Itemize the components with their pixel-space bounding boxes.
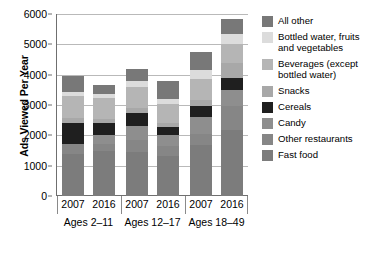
- bar-series-container: [56, 14, 248, 196]
- bar-segment: [190, 106, 212, 118]
- stacked-bar: [221, 19, 243, 196]
- x-axis-group-labels: Ages 2–11Ages 12–17Ages 18–49: [56, 216, 248, 232]
- bar-segment: [126, 126, 148, 140]
- x-group-label: Ages 2–11: [52, 216, 126, 228]
- legend-label: Candy: [278, 117, 306, 128]
- x-label-separator: [121, 196, 122, 214]
- legend-item: Beverages (except bottled water): [262, 58, 372, 81]
- x-group-label: Ages 18–49: [180, 216, 254, 228]
- x-axis-labels: 200720162007201620072016: [56, 196, 248, 214]
- bar-segment: [126, 113, 148, 126]
- bar-segment: [62, 123, 84, 144]
- y-tick-label: 2000: [24, 129, 47, 141]
- stacked-bar: [126, 69, 148, 196]
- legend-item: Fast food: [262, 149, 372, 161]
- bar-segment: [93, 94, 115, 97]
- bar-segment: [62, 118, 84, 123]
- legend-swatch: [262, 102, 273, 113]
- bar-segment: [190, 100, 212, 106]
- legend-label: Cereals: [278, 101, 311, 112]
- bar-segment: [190, 134, 212, 146]
- y-axis-ticks: 0100020003000400050006000: [0, 14, 52, 196]
- y-tick-mark: [48, 196, 52, 197]
- stacked-bar: [190, 52, 212, 196]
- y-tick-label: 3000: [24, 99, 47, 111]
- x-label-separator: [185, 196, 186, 214]
- legend-swatch: [262, 118, 273, 129]
- bar-segment: [157, 123, 179, 128]
- y-tick-label: 1000: [24, 160, 47, 172]
- bar-segment: [126, 152, 148, 196]
- legend-swatch: [262, 16, 273, 27]
- y-tick-mark: [48, 44, 52, 45]
- bar-segment: [221, 78, 243, 90]
- bar-segment: [93, 123, 115, 136]
- bar-segment: [190, 79, 212, 100]
- stacked-bar: [62, 76, 84, 196]
- bar-segment: [157, 81, 179, 99]
- bar-segment: [157, 146, 179, 156]
- bar-segment: [93, 119, 115, 123]
- x-tick-label: 2007: [120, 198, 154, 210]
- bar-segment: [221, 90, 243, 106]
- bar-segment: [221, 19, 243, 34]
- bar-segment: [157, 104, 179, 123]
- bar-segment: [190, 52, 212, 70]
- y-tick-mark: [48, 135, 52, 136]
- bar-segment: [157, 156, 179, 196]
- legend-label: Fast food: [278, 149, 318, 160]
- bar-segment: [62, 92, 84, 96]
- bar-segment: [62, 144, 84, 155]
- bar-segment: [62, 76, 84, 92]
- legend-item: Bottled water, fruits and vegetables: [262, 31, 372, 54]
- x-group-label: Ages 12–17: [116, 216, 190, 228]
- x-label-separator: [57, 196, 58, 214]
- bar-segment: [221, 44, 243, 63]
- legend-swatch: [262, 32, 273, 43]
- legend-item: Candy: [262, 117, 372, 129]
- plot-area: [56, 14, 248, 196]
- y-tick-mark: [48, 165, 52, 166]
- x-tick-label: 2016: [87, 198, 121, 210]
- x-tick-label: 2016: [215, 198, 249, 210]
- bar-segment: [62, 154, 84, 196]
- bar-segment: [221, 106, 243, 130]
- legend-label: Beverages (except bottled water): [278, 58, 372, 81]
- bar-segment: [126, 69, 148, 81]
- bar-segment: [93, 98, 115, 119]
- bar-segment: [221, 63, 243, 79]
- legend-label: Other restaurants: [278, 133, 353, 144]
- legend-label: Snacks: [278, 85, 309, 96]
- stacked-bar: [93, 85, 115, 196]
- bar-segment: [190, 70, 212, 80]
- x-tick-label: 2016: [151, 198, 185, 210]
- stacked-bar: [157, 81, 179, 196]
- y-tick-mark: [48, 105, 52, 106]
- legend-label: Bottled water, fruits and vegetables: [278, 31, 372, 54]
- bar-segment: [190, 117, 212, 133]
- bar-segment: [126, 140, 148, 152]
- legend-swatch: [262, 59, 273, 70]
- bar-segment: [190, 145, 212, 196]
- bar-segment: [126, 81, 148, 87]
- bar-segment: [221, 130, 243, 196]
- legend-swatch: [262, 134, 273, 145]
- bar-segment: [157, 127, 179, 134]
- bar-segment: [221, 34, 243, 44]
- legend-item: All other: [262, 15, 372, 27]
- legend-item: Snacks: [262, 85, 372, 97]
- y-tick-label: 5000: [24, 38, 47, 50]
- bar-segment: [62, 96, 84, 118]
- y-tick-label: 6000: [24, 8, 47, 20]
- legend-label: All other: [278, 15, 313, 26]
- chart-root: Ads Viewed Per Year 01000200030004000500…: [0, 0, 375, 260]
- legend-item: Cereals: [262, 101, 372, 113]
- bar-segment: [93, 151, 115, 196]
- chart-legend: All otherBottled water, fruits and veget…: [262, 15, 372, 165]
- x-tick-label: 2007: [56, 198, 90, 210]
- bar-segment: [93, 85, 115, 94]
- bar-segment: [157, 135, 179, 146]
- y-tick-mark: [48, 14, 52, 15]
- x-label-separator: [247, 196, 248, 214]
- legend-swatch: [262, 150, 273, 161]
